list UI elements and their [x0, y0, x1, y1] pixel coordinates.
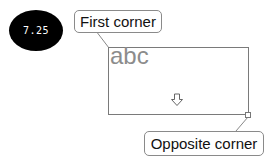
first-corner-leader: [96, 31, 109, 48]
sample-text: abc: [110, 44, 149, 68]
badge-value: 7.25: [23, 25, 49, 36]
opposite-corner-leader: [236, 117, 248, 131]
opposite-corner-label: Opposite corner: [151, 136, 258, 151]
first-corner-label: First corner: [80, 14, 156, 29]
opposite-corner-callout: Opposite corner: [144, 131, 264, 156]
first-corner-callout: First corner: [74, 10, 162, 33]
resize-handle[interactable]: [245, 112, 251, 118]
value-badge: 7.25: [9, 10, 63, 51]
down-arrow-icon: [170, 93, 184, 107]
